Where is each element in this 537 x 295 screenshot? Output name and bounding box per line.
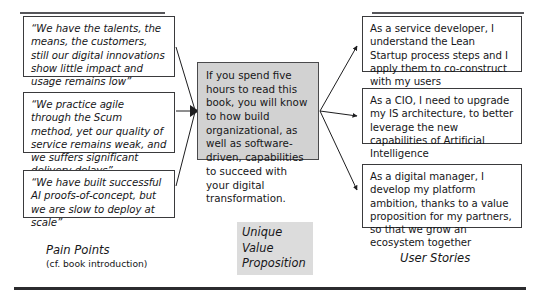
user-story-text-1: As a service developer, I understand the… <box>370 23 508 87</box>
user-story-box-1[interactable]: As a service developer, I understand the… <box>362 16 522 72</box>
value-proposition-title-line3: Proposition <box>242 256 306 272</box>
value-proposition-title-line2: Value <box>242 241 306 257</box>
user-stories-title: User Stories <box>400 251 470 265</box>
user-story-box-3[interactable]: As a digital manager, I develop my platf… <box>362 164 522 228</box>
pain-point-text-2: “We practice agile through the Scum meth… <box>31 99 166 176</box>
value-proposition-title-line1: Unique <box>242 225 306 241</box>
pain-point-box-3[interactable]: “We have built successful AI proofs-of-c… <box>23 170 175 218</box>
diagram-canvas: “We have the talents, the means, the cus… <box>0 0 537 295</box>
top-right-rule <box>372 12 524 14</box>
value-proposition-text: If you spend five hours to read this boo… <box>206 69 307 204</box>
pain-point-text-1: “We have the talents, the means, the cus… <box>31 23 165 87</box>
bottom-rule <box>14 287 526 290</box>
user-story-text-3: As a digital manager, I develop my platf… <box>370 171 512 248</box>
pain-points-caption: Pain Points (cf. book introduction) <box>46 243 147 269</box>
pain-point-text-3: “We have built successful AI proofs-of-c… <box>31 177 161 228</box>
value-proposition-caption: Unique Value Proposition <box>237 222 313 275</box>
pain-points-title: Pain Points <box>46 243 147 257</box>
pain-point-box-2[interactable]: “We practice agile through the Scum meth… <box>23 92 175 153</box>
pain-points-subtitle: (cf. book introduction) <box>46 258 147 269</box>
top-left-rule <box>20 12 165 14</box>
user-story-box-2[interactable]: As a CIO, I need to upgrade my IS archit… <box>362 88 522 144</box>
pain-point-box-1[interactable]: “We have the talents, the means, the cus… <box>23 16 175 77</box>
user-story-text-2: As a CIO, I need to upgrade my IS archit… <box>370 95 513 159</box>
user-stories-caption: User Stories <box>400 251 470 265</box>
value-proposition-box[interactable]: If you spend five hours to read this boo… <box>197 62 319 160</box>
